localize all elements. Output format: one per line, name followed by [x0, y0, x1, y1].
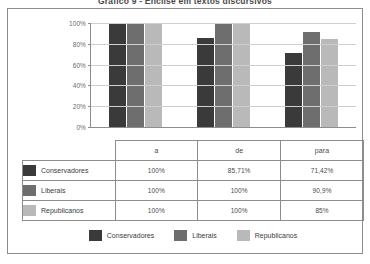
gridline — [91, 44, 356, 45]
table-series-cell: Republicanos — [23, 201, 116, 221]
y-axis-tick — [88, 44, 91, 45]
bar — [109, 23, 126, 127]
series-label: Liberais — [41, 187, 66, 194]
table-series-cell: Liberais — [23, 181, 116, 201]
legend-item: Liberais — [174, 230, 217, 241]
y-axis-tick-label: 100% — [69, 20, 86, 27]
table-value-cell: 71,42% — [281, 161, 364, 181]
bar — [215, 23, 232, 127]
table-value-cell: 100% — [198, 201, 281, 221]
bar — [321, 39, 338, 127]
series-label: Republicanos — [41, 207, 83, 214]
table-value-cell: 100% — [115, 161, 198, 181]
y-axis-tick-label: 40% — [73, 82, 86, 89]
bar — [197, 38, 214, 127]
legend-item: Conservadores — [89, 230, 154, 241]
bar — [233, 23, 250, 127]
series-color-swatch — [23, 205, 36, 216]
gridline — [91, 65, 356, 66]
y-axis-tick — [88, 23, 91, 24]
bar-group — [268, 23, 356, 127]
y-axis-tick-label: 0% — [76, 124, 86, 131]
table-header-row: adepara — [23, 141, 364, 161]
table-head: adepara — [23, 141, 364, 161]
table-column-header: a — [115, 141, 198, 161]
series-color-swatch — [23, 185, 36, 196]
plot-area: 100%80%60%40%20%0% — [56, 23, 356, 141]
table-value-cell: 85% — [281, 201, 364, 221]
bar — [303, 32, 320, 127]
bar — [127, 23, 144, 127]
y-axis-tick — [88, 65, 91, 66]
y-axis-tick-label: 60% — [73, 61, 86, 68]
y-axis-tick — [88, 106, 91, 107]
legend-item: Republicanos — [237, 230, 297, 241]
series-label: Conservadores — [41, 167, 88, 174]
table-value-cell: 85,71% — [198, 161, 281, 181]
bar-group — [91, 23, 179, 127]
table-body: Conservadores100%85,71%71,42%Liberais100… — [23, 161, 364, 221]
bar — [145, 23, 162, 127]
chart-figure: Gráfico 9 - Ênclise em textos discursivo… — [0, 0, 370, 264]
table-column-header: de — [198, 141, 281, 161]
series-color-swatch — [23, 165, 36, 176]
table-value-cell: 90,9% — [281, 181, 364, 201]
table-row: Republicanos100%100%85% — [23, 201, 364, 221]
legend-color-swatch — [89, 230, 102, 241]
y-axis-tick — [88, 85, 91, 86]
chart-legend: ConservadoresLiberaisRepublicanos — [22, 230, 364, 241]
bar-group — [179, 23, 267, 127]
table-row: Conservadores100%85,71%71,42% — [23, 161, 364, 181]
legend-label: Liberais — [192, 232, 217, 239]
bar-groups — [91, 23, 356, 127]
legend-color-swatch — [237, 230, 250, 241]
y-axis-tick — [88, 127, 91, 128]
y-axis-tick-label: 20% — [73, 103, 86, 110]
gridline — [91, 106, 356, 107]
table-value-cell: 100% — [198, 181, 281, 201]
y-axis-labels: 100%80%60%40%20%0% — [56, 23, 86, 127]
data-table: adepara Conservadores100%85,71%71,42%Lib… — [22, 140, 364, 221]
chart-title: Gráfico 9 - Ênclise em textos discursivo… — [0, 0, 370, 6]
table-corner-cell — [23, 141, 116, 161]
legend-color-swatch — [174, 230, 187, 241]
y-axis-tick-label: 80% — [73, 40, 86, 47]
table-value-cell: 100% — [115, 201, 198, 221]
x-axis-line — [91, 127, 356, 128]
gridline — [91, 85, 356, 86]
legend-label: Republicanos — [255, 232, 297, 239]
legend-label: Conservadores — [107, 232, 154, 239]
chart-frame: 100%80%60%40%20%0% adepara Conservadores… — [7, 8, 363, 254]
table-series-cell: Conservadores — [23, 161, 116, 181]
table-value-cell: 100% — [115, 181, 198, 201]
table-column-header: para — [281, 141, 364, 161]
table-row: Liberais100%100%90,9% — [23, 181, 364, 201]
gridline — [91, 23, 356, 24]
plot-axes — [90, 23, 356, 127]
